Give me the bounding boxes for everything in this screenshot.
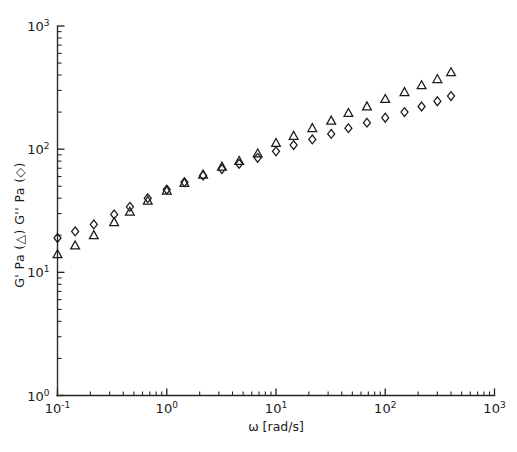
y-tick-label-exponent: 1 <box>44 264 50 274</box>
y-tick-label-exponent: 0 <box>44 388 50 398</box>
figure-background <box>0 0 517 452</box>
x-tick-label-exponent: 0 <box>172 400 178 410</box>
rheology-figure: 100101102103 10-1100101102103 ω [rad/s] … <box>0 0 517 452</box>
y-axis-title: G' Pa (△) G'' Pa (◇) <box>12 162 27 288</box>
x-tick-label-exponent: 1 <box>281 400 287 410</box>
x-tick-label-exponent: 3 <box>500 400 506 410</box>
x-tick-label-exponent: -1 <box>61 400 70 410</box>
x-tick-label-exponent: 2 <box>391 400 397 410</box>
y-tick-label-exponent: 2 <box>44 141 50 151</box>
log-log-scatter-plot: 100101102103 10-1100101102103 ω [rad/s] … <box>0 0 517 452</box>
y-tick-label-exponent: 3 <box>44 18 50 28</box>
x-axis-title: ω [rad/s] <box>248 419 304 434</box>
